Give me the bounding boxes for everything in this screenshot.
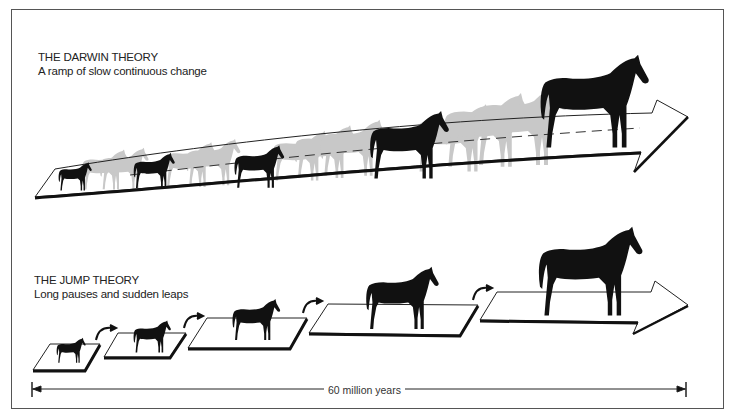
jump-heading: THE JUMP THEORY Long pauses and sudden l…	[34, 273, 188, 301]
jump-title: THE JUMP THEORY	[34, 273, 188, 287]
darwin-title: THE DARWIN THEORY	[38, 50, 207, 64]
arrow-left-icon	[33, 386, 41, 392]
darwin-heading: THE DARWIN THEORY A ramp of slow continu…	[38, 50, 207, 78]
darwin-subtitle: A ramp of slow continuous change	[38, 64, 207, 78]
arrow-right-icon	[677, 386, 685, 392]
jump-subtitle: Long pauses and sudden leaps	[34, 287, 188, 301]
timeline-label: 60 million years	[324, 384, 405, 396]
